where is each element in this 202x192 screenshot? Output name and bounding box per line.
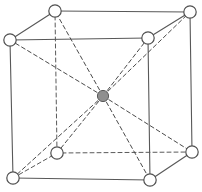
- body-diagonal-body-center-to-back-bottom-right: [103, 96, 192, 152]
- cube-edge-front-bottom-right-to-front-bottom-left: [13, 178, 150, 180]
- cube-edge-front-bottom-left-to-front-top-left: [10, 40, 13, 178]
- atom-back-bottom-right: [186, 146, 198, 158]
- bcc-unit-cell-figure: [0, 0, 202, 192]
- cube-edge-back-top-left-to-back-top-right: [55, 11, 190, 12]
- body-diagonal-body-center-to-front-bottom-left: [13, 96, 103, 178]
- lattice-canvas: [0, 0, 202, 192]
- atom-back-top-left: [49, 5, 61, 17]
- body-diagonal-body-center-to-front-bottom-right: [103, 96, 150, 180]
- body-diagonal-body-center-to-back-top-right: [103, 12, 190, 96]
- cube-edge-front-top-left-to-back-top-left: [10, 11, 55, 40]
- atom-front-bottom-left: [7, 172, 19, 184]
- body-diagonal-body-center-to-front-top-right: [103, 38, 148, 96]
- atom-back-top-right: [184, 6, 196, 18]
- cube-edge-back-bottom-left-to-back-top-left: [55, 11, 57, 153]
- atom-back-bottom-left: [51, 147, 63, 159]
- cube-edge-front-top-left-to-front-top-right: [10, 38, 148, 40]
- cube-edge-back-bottom-right-to-back-bottom-left: [57, 152, 192, 153]
- body-diagonal-body-center-to-back-bottom-left: [57, 96, 103, 153]
- cube-edge-back-top-right-to-back-bottom-right: [190, 12, 192, 152]
- atom-front-top-left: [4, 34, 16, 46]
- cube-edge-front-bottom-left-to-back-bottom-left: [13, 153, 57, 178]
- cube-edge-front-bottom-right-to-back-bottom-right: [150, 152, 192, 180]
- atom-body-center: [97, 90, 108, 101]
- cube-edge-front-top-right-to-back-top-right: [148, 12, 190, 38]
- atom-front-top-right: [142, 32, 154, 44]
- atom-front-bottom-right: [144, 174, 156, 186]
- cube-edge-front-top-right-to-front-bottom-right: [148, 38, 150, 180]
- body-diagonal-body-center-to-back-top-left: [55, 11, 103, 96]
